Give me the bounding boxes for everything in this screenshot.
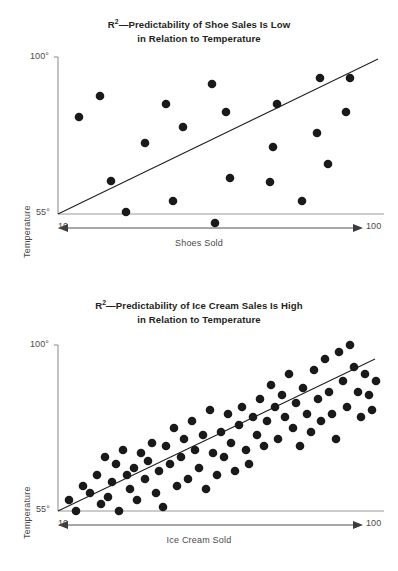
scatter-points bbox=[75, 74, 355, 228]
x-axis-title: Ice Cream Sold bbox=[0, 535, 398, 545]
plot-area-shoe-sales: Temperature 100° 55° 10 100 Shoes Sold bbox=[0, 46, 398, 276]
y-tick-top: 100° bbox=[30, 51, 49, 61]
chart-title-line1: R2—Predictability of Shoe Sales Is Low bbox=[108, 19, 290, 30]
x-axis-range-arrow bbox=[58, 521, 363, 529]
x-tick-left: 10 bbox=[58, 221, 68, 231]
chart-title-line2: in Relation to Temperature bbox=[0, 32, 398, 46]
chart-title-line1: R2—Predictability of Ice Cream Sales Is … bbox=[95, 300, 303, 311]
trend-line bbox=[58, 59, 378, 214]
chart-title-line1-text: —Predictability of Ice Cream Sales Is Hi… bbox=[106, 300, 303, 311]
x-axis-range-arrow bbox=[58, 224, 363, 232]
chart-title-shoe-sales: R2—Predictability of Shoe Sales Is Low i… bbox=[0, 0, 398, 46]
y-tick-top: 100° bbox=[30, 339, 49, 349]
x-tick-left: 10 bbox=[58, 518, 68, 528]
chart-title-line1-text: —Predictability of Shoe Sales Is Low bbox=[119, 19, 291, 30]
chart-ice-cream-sales: R2—Predictability of Ice Cream Sales Is … bbox=[0, 285, 398, 571]
x-axis-title: Shoes Sold bbox=[0, 238, 398, 248]
scatter-svg-ice-cream-sales bbox=[0, 327, 398, 567]
plot-area-ice-cream-sales: Temperature 100° 55° 10 100 Ice Cream So… bbox=[0, 327, 398, 567]
y-axis-label: Temperature bbox=[22, 205, 32, 258]
y-tick-bottom: 55° bbox=[36, 207, 50, 217]
x-tick-right: 100 bbox=[366, 221, 381, 231]
y-axis-label: Temperature bbox=[22, 486, 32, 539]
chart-title-line2: in Relation to Temperature bbox=[0, 313, 398, 327]
chart-title-ice-cream-sales: R2—Predictability of Ice Cream Sales Is … bbox=[0, 285, 398, 327]
scatter-points bbox=[65, 341, 381, 516]
y-tick-bottom: 55° bbox=[36, 504, 50, 514]
x-tick-right: 100 bbox=[366, 518, 381, 528]
r-symbol: R bbox=[108, 19, 115, 30]
trend-line bbox=[58, 359, 375, 511]
chart-shoe-sales: R2—Predictability of Shoe Sales Is Low i… bbox=[0, 0, 398, 285]
